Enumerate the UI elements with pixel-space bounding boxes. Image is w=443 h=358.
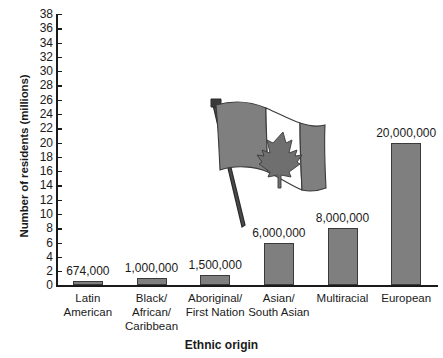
y-tick: 36: [57, 28, 62, 29]
y-axis-line: [56, 14, 58, 287]
y-tick-label: 22: [40, 122, 53, 134]
plot-area: 02468101214161820222426283032343638 674,…: [56, 14, 438, 287]
bar: [264, 243, 294, 286]
bar-value-label: 1,000,000: [125, 262, 178, 275]
y-tick: 8: [57, 228, 62, 229]
y-tick-label: 20: [40, 137, 53, 149]
y-tick: 0: [57, 285, 62, 286]
x-tick-label: Aboriginal/ First Nation: [186, 291, 245, 319]
y-tick-label: 16: [40, 165, 53, 177]
y-tick: 28: [57, 85, 62, 86]
y-tick: 22: [57, 128, 62, 129]
y-tick-label: 26: [40, 94, 53, 106]
x-axis-line: [56, 285, 438, 287]
y-axis-title: Number of residents (millions): [18, 56, 30, 256]
y-tick: 16: [57, 171, 62, 172]
bar: [328, 228, 358, 285]
y-tick-label: 12: [40, 194, 53, 206]
bar: [391, 143, 421, 286]
y-tick: 38: [57, 14, 62, 15]
y-tick-label: 30: [40, 65, 53, 77]
y-tick-label: 8: [46, 222, 53, 234]
y-tick-label: 18: [40, 151, 53, 163]
canadian-flag-icon: [196, 96, 328, 232]
y-tick: 20: [57, 143, 62, 144]
y-tick-label: 28: [40, 79, 53, 91]
bar-value-label: 674,000: [66, 265, 109, 278]
bar: [200, 275, 230, 286]
x-tick-label: Multiracial: [317, 291, 369, 305]
y-tick: 24: [57, 114, 62, 115]
y-tick-label: 24: [40, 108, 53, 120]
x-tick-label: Asian/ South Asian: [248, 291, 309, 319]
x-tick-label: Black/ African/ Caribbean: [125, 291, 178, 333]
y-tick: 6: [57, 243, 62, 244]
y-tick: 18: [57, 157, 62, 158]
y-tick: 26: [57, 100, 62, 101]
y-tick: 2: [57, 271, 62, 272]
y-tick: 12: [57, 200, 62, 201]
y-tick-label: 38: [40, 8, 53, 20]
y-tick-label: 6: [46, 237, 53, 249]
bar: [137, 278, 167, 285]
bar-value-label: 20,000,000: [376, 127, 436, 140]
y-tick-label: 0: [46, 279, 53, 291]
x-axis-title: Ethnic origin: [0, 338, 443, 352]
canadian-flag-illustration: [196, 96, 328, 232]
y-tick: 30: [57, 71, 62, 72]
y-tick: 14: [57, 185, 62, 186]
y-tick-label: 4: [46, 251, 53, 263]
y-tick-label: 14: [40, 179, 53, 191]
x-tick-label: European: [381, 291, 431, 305]
bar: [73, 281, 103, 286]
y-tick: 32: [57, 57, 62, 58]
bar-chart: Number of residents (millions) 024681012…: [0, 0, 443, 358]
y-tick-label: 34: [40, 37, 53, 49]
y-tick-label: 2: [46, 265, 53, 277]
y-tick-label: 10: [40, 208, 53, 220]
x-tick-label: Latin American: [64, 291, 113, 319]
y-tick: 34: [57, 43, 62, 44]
y-tick: 4: [57, 257, 62, 258]
y-tick: 10: [57, 214, 62, 215]
y-tick-label: 36: [40, 22, 53, 34]
bar-value-label: 1,500,000: [188, 259, 241, 272]
y-tick-label: 32: [40, 51, 53, 63]
